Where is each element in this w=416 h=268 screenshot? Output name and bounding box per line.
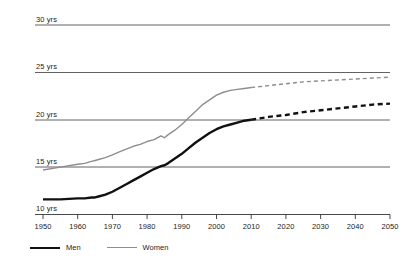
legend-item-men[interactable]: Men xyxy=(30,243,81,252)
series-men-historical xyxy=(43,120,251,200)
legend-swatch-women-icon xyxy=(107,247,137,248)
x-axis-label-1990: 1990 xyxy=(173,222,190,231)
series-men-projection xyxy=(251,104,390,120)
x-axis-label-2020: 2020 xyxy=(277,222,294,231)
x-axis-label-2040: 2040 xyxy=(347,222,364,231)
chart-legend: Men Women xyxy=(30,243,168,252)
y-axis-label-10: 10 yrs xyxy=(36,204,57,213)
x-axis-label-1970: 1970 xyxy=(104,222,121,231)
x-axis-label-2000: 2000 xyxy=(208,222,225,231)
y-axis-label-30: 30 yrs xyxy=(36,15,57,24)
legend-label-women: Women xyxy=(143,243,169,252)
line-chart: 30 yrs25 yrs20 yrs15 yrs10 yrs 195019601… xyxy=(0,0,416,268)
x-axis-ticks xyxy=(43,215,390,220)
data-series-lines xyxy=(43,77,390,199)
legend-swatch-men-icon xyxy=(30,247,60,249)
legend-item-women[interactable]: Women xyxy=(107,243,169,252)
x-axis-label-1950: 1950 xyxy=(34,222,51,231)
series-women-projection xyxy=(251,77,390,87)
legend-label-men: Men xyxy=(66,243,81,252)
gridlines xyxy=(35,25,390,215)
y-axis-label-20: 20 yrs xyxy=(36,110,57,119)
x-axis-label-1960: 1960 xyxy=(69,222,86,231)
y-axis-label-15: 15 yrs xyxy=(36,157,57,166)
x-axis-label-1980: 1980 xyxy=(139,222,156,231)
x-axis-label-2050: 2050 xyxy=(381,222,398,231)
y-axis-label-25: 25 yrs xyxy=(36,62,57,71)
x-axis-label-2010: 2010 xyxy=(243,222,260,231)
x-axis-label-2030: 2030 xyxy=(312,222,329,231)
